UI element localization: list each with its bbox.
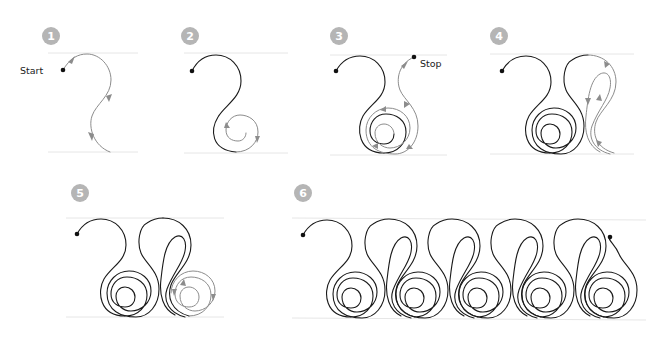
stop-dot [412, 55, 417, 60]
step-badge-number: 4 [495, 30, 503, 43]
step-badge-number: 2 [186, 30, 194, 43]
stop-label: Stop [420, 58, 442, 69]
stitch-path [77, 219, 126, 316]
motif-repeat [333, 219, 417, 318]
stitch-path-current [366, 57, 418, 154]
direction-arrow-icon [224, 122, 230, 128]
stitch-path [107, 218, 163, 317]
stitch-path [502, 56, 551, 153]
start-dot [75, 232, 80, 237]
start-dot [190, 69, 195, 74]
step-3-panel: 3 Stop [330, 27, 447, 155]
direction-arrow-icon [585, 98, 591, 105]
stitch-path [192, 55, 241, 152]
swirl-diagram: 1 Start 2 3 Stop [0, 0, 672, 342]
start-label: Start [20, 65, 43, 76]
step-4-panel: 4 [490, 27, 634, 154]
direction-arrow-icon [68, 56, 75, 64]
start-dot [61, 68, 66, 73]
step-6-panel: 6 [292, 184, 646, 320]
direction-arrow-icon [106, 94, 112, 102]
step-badge-number: 1 [47, 30, 55, 43]
step-badge-number: 6 [299, 187, 307, 200]
stitch-path [63, 54, 111, 152]
step-badge-number: 5 [76, 187, 84, 200]
direction-arrow-icon [596, 94, 602, 101]
stitch-path-current [171, 271, 215, 316]
step-1-panel: 1 Start [20, 27, 138, 152]
bottom-guide-line [292, 318, 646, 320]
direction-arrow-icon [172, 289, 177, 296]
stitch-path-current [226, 115, 258, 152]
step-badge-number: 3 [335, 30, 343, 43]
step-5-panel: 5 [66, 184, 224, 317]
direction-arrow-icon [88, 132, 94, 141]
stop-dot [608, 235, 613, 240]
stitch-path-current [588, 55, 616, 153]
stitch-path [336, 56, 385, 153]
top-guide-line [292, 218, 646, 220]
start-dot [334, 69, 339, 74]
direction-arrow-icon [372, 143, 378, 149]
stitch-path [532, 55, 588, 154]
start-dot [500, 69, 505, 74]
stitch-path [303, 220, 352, 317]
motif-final [585, 237, 637, 318]
start-dot [301, 233, 306, 238]
direction-arrow-icon [404, 101, 410, 108]
step-2-panel: 2 [181, 27, 288, 153]
